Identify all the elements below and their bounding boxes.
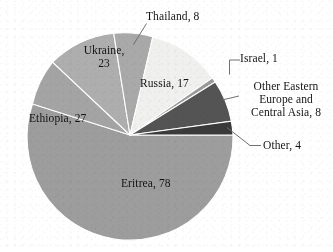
pie-label-other-ee-line1: Other Eastern <box>239 80 333 93</box>
pie-label-thailand-text: Thailand, 8 <box>146 10 199 23</box>
pie-label-ukraine-line1: Ukraine, <box>73 44 135 57</box>
pie-label-other-eastern-europe-central-asia: Other Eastern Europe and Central Asia, 8 <box>239 80 333 120</box>
pie-label-ethiopia: Ethiopia, 27 <box>29 112 86 125</box>
pie-label-eritrea-text: Eritrea, 78 <box>121 177 171 190</box>
pie-label-other: Other, 4 <box>263 139 301 152</box>
pie-label-other-ee-line2: Europe and <box>239 93 333 106</box>
pie-chart-canvas <box>0 0 333 252</box>
pie-chart: Thailand, 8 Ukraine, 23 Russia, 17 Israe… <box>0 0 333 252</box>
pie-label-other-text: Other, 4 <box>263 139 301 152</box>
pie-label-other-ee-line3: Central Asia, 8 <box>239 106 333 119</box>
pie-label-russia-text: Russia, 17 <box>140 77 189 90</box>
leader-line-israel <box>230 60 241 75</box>
pie-label-israel: Israel, 1 <box>240 52 278 65</box>
pie-label-ukraine-line2: 23 <box>73 57 135 70</box>
pie-label-eritrea: Eritrea, 78 <box>121 177 171 190</box>
pie-label-thailand: Thailand, 8 <box>146 10 199 23</box>
pie-label-ukraine: Ukraine, 23 <box>73 44 135 70</box>
pie-label-russia: Russia, 17 <box>140 77 189 90</box>
pie-label-israel-text: Israel, 1 <box>240 52 278 65</box>
pie-label-ethiopia-text: Ethiopia, 27 <box>29 112 86 125</box>
